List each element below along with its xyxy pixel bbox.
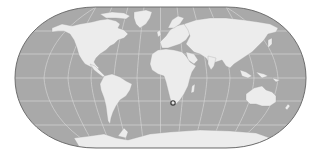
world-map <box>0 0 324 160</box>
world-map-svg <box>0 0 324 160</box>
